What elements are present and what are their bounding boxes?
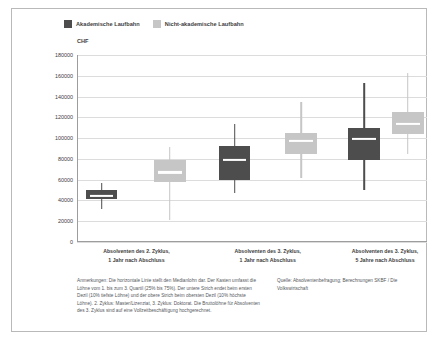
y-axis-tick-label: 120000 [55,114,73,120]
y-axis-tick-label: 180000 [55,52,73,58]
legend-label-akademisch: Akademische Laufbahn [76,21,140,27]
legend-label-nicht-akademisch: Nicht-akademische Laufbahn [165,21,244,27]
plot-axes-frame [77,55,427,242]
x-axis-category-label-2: Absolventen des 3. Zyklus,1 Jahr nach Ab… [208,247,327,265]
y-axis-tick-label: 40000 [58,197,73,203]
y-axis-tick-label: 100000 [55,135,73,141]
chart-footnotes: Anmerkungen: Die horizontale Linie stell… [77,277,427,315]
chart-note-quelle: Quelle: Absolventenbefragung; Berechnung… [277,277,427,315]
legend-swatch-akademisch [64,20,72,28]
x-axis-category-label-3: Absolventen des 3. Zyklus,5 Jahre nach A… [326,247,441,265]
y-axis-unit-label: CHF [77,38,89,44]
x-axis-category-line: Absolventen des 3. Zyklus, [326,247,441,256]
x-axis-category-label-1: Absolventen des 2. Zyklus,1 Jahr nach Ab… [77,247,196,265]
y-axis-tick-label: 60000 [58,177,73,183]
chart-figure-frame: Akademische Laufbahn Nicht-akademische L… [11,8,427,332]
y-axis-tick-label: 160000 [55,73,73,79]
legend-entry-nicht-akademisch: Nicht-akademische Laufbahn [153,20,244,28]
x-axis-category-line: 5 Jahre nach Abschluss [326,256,441,265]
gridline [77,242,427,243]
legend-entry-akademisch: Akademische Laufbahn [64,20,140,28]
plot-area: 1800001600001400001200001000008000060000… [77,55,427,242]
y-axis-tick-label: 20000 [58,218,73,224]
legend-swatch-nicht-akademisch [153,20,161,28]
x-axis-category-line: 1 Jahr nach Abschluss [208,256,327,265]
chart-note-anmerkungen: Anmerkungen: Die horizontale Linie stell… [77,277,263,315]
x-axis-category-line: 1 Jahr nach Abschluss [77,256,196,265]
x-axis-category-line: Absolventen des 3. Zyklus, [208,247,327,256]
x-axis-category-line: Absolventen des 2. Zyklus, [77,247,196,256]
y-axis-tick-label: 140000 [55,94,73,100]
y-axis-tick-label: 0 [70,239,73,245]
chart-legend: Akademische Laufbahn Nicht-akademische L… [64,18,244,30]
x-axis-category-labels: Absolventen des 2. Zyklus,1 Jahr nach Ab… [77,247,427,269]
y-axis-tick-label: 80000 [58,156,73,162]
